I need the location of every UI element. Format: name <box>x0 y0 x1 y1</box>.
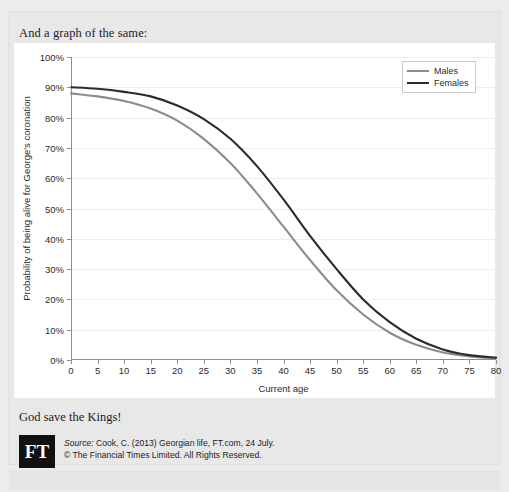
y-tick-label: 100% <box>40 52 64 63</box>
x-tick-label: 10 <box>119 365 130 376</box>
x-tick-label: 55 <box>358 365 369 376</box>
source-rest: Cook, C. (2013) Georgian life, FT.com, 2… <box>94 438 275 448</box>
y-tick-label: 30% <box>45 264 64 275</box>
x-tick <box>337 360 338 364</box>
y-tick <box>67 57 71 58</box>
x-tick-label: 80 <box>491 365 502 376</box>
x-tick <box>257 360 258 364</box>
series-line-females <box>71 87 496 357</box>
legend-label-females: Females <box>434 78 469 88</box>
legend-swatch-females <box>407 82 429 84</box>
source-block: FT Source: Cook, C. (2013) Georgian life… <box>19 435 274 468</box>
x-tick-label: 35 <box>252 365 263 376</box>
card-heading: And a graph of the same: <box>19 26 147 41</box>
x-tick-label: 45 <box>305 365 316 376</box>
ft-logo: FT <box>19 435 55 468</box>
x-tick <box>496 360 497 364</box>
y-tick-label: 50% <box>45 203 64 214</box>
y-tick <box>67 118 71 119</box>
source-line-2: © The Financial Times Limited. All Right… <box>64 449 274 461</box>
y-tick <box>67 269 71 270</box>
y-tick <box>67 330 71 331</box>
x-tick <box>469 360 470 364</box>
x-tick <box>390 360 391 364</box>
y-tick <box>67 299 71 300</box>
x-tick <box>230 360 231 364</box>
legend-label-males: Males <box>434 66 458 76</box>
x-tick <box>443 360 444 364</box>
x-tick <box>124 360 125 364</box>
chart-legend: Males Females <box>402 61 476 93</box>
x-tick-label: 65 <box>411 365 422 376</box>
x-tick <box>284 360 285 364</box>
legend-swatch-males <box>407 70 429 72</box>
x-tick <box>151 360 152 364</box>
x-tick <box>98 360 99 364</box>
x-tick-label: 50 <box>331 365 342 376</box>
y-tick-label: 20% <box>45 294 64 305</box>
series-line-males <box>71 93 496 358</box>
screenshot-root: And a graph of the same: Probability of … <box>0 0 509 492</box>
x-tick-label: 0 <box>68 365 73 376</box>
x-axis-title: Current age <box>71 383 496 394</box>
source-text: Source: Cook, C. (2013) Georgian life, F… <box>64 435 274 468</box>
x-tick <box>310 360 311 364</box>
x-tick-label: 70 <box>438 365 449 376</box>
y-tick <box>67 87 71 88</box>
y-tick <box>67 239 71 240</box>
source-line-1: Source: Cook, C. (2013) Georgian life, F… <box>64 437 274 449</box>
x-tick-label: 30 <box>225 365 236 376</box>
x-tick <box>416 360 417 364</box>
x-tick <box>204 360 205 364</box>
x-tick <box>363 360 364 364</box>
closing-line: God save the Kings! <box>19 410 121 425</box>
y-tick-label: 10% <box>45 324 64 335</box>
line-curves <box>71 57 496 360</box>
x-tick-label: 75 <box>464 365 475 376</box>
y-tick-label: 40% <box>45 233 64 244</box>
x-tick-label: 15 <box>145 365 156 376</box>
y-tick-label: 70% <box>45 142 64 153</box>
x-tick-label: 5 <box>95 365 100 376</box>
x-tick <box>71 360 72 364</box>
legend-item-males[interactable]: Males <box>407 65 469 77</box>
chart-panel: Probability of being alive for George's … <box>14 43 495 398</box>
plot-area: 0%10%20%30%40%50%60%70%80%90%100%0510152… <box>71 57 496 360</box>
y-tick-label: 90% <box>45 82 64 93</box>
y-tick-label: 80% <box>45 112 64 123</box>
y-tick-label: 0% <box>50 355 64 366</box>
y-tick <box>67 148 71 149</box>
bottom-strip <box>9 470 500 490</box>
y-tick <box>67 178 71 179</box>
y-tick-label: 60% <box>45 173 64 184</box>
y-axis-title: Probability of being alive for George's … <box>21 74 32 324</box>
content-card: And a graph of the same: Probability of … <box>9 12 500 464</box>
x-tick-label: 25 <box>199 365 210 376</box>
x-tick-label: 60 <box>384 365 395 376</box>
x-tick-label: 20 <box>172 365 183 376</box>
legend-item-females[interactable]: Females <box>407 77 469 89</box>
x-tick <box>177 360 178 364</box>
y-tick <box>67 209 71 210</box>
x-tick-label: 40 <box>278 365 289 376</box>
source-prefix: Source: <box>64 438 94 448</box>
